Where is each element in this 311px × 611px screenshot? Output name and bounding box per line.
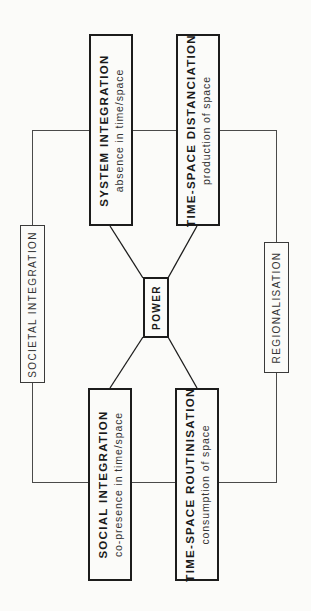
node-social-integration: SOCIAL INTEGRATION co-presence in time/s…: [88, 388, 132, 581]
edge-power-social-integration: [110, 337, 143, 388]
node-subtitle: co-presence in time/space: [111, 412, 125, 557]
node-power: POWER: [143, 277, 169, 338]
edge-power-routinisation: [168, 337, 197, 388]
edge-power-system-integration: [110, 226, 143, 278]
node-subtitle: absence in time/space: [112, 68, 126, 191]
node-title: TIME-SPACE ROUTINISATION: [183, 387, 198, 581]
node-time-space-distanciation: TIME-SPACE DISTANCIATION production of s…: [176, 34, 220, 226]
side-label-right: REGIONALISATION: [271, 252, 282, 364]
label-regionalisation: REGIONALISATION: [264, 242, 289, 373]
node-subtitle: consumption of space: [198, 424, 212, 544]
label-societal-integration: SOCIETAL INTEGRATION: [20, 225, 45, 383]
diagram-canvas: SYSTEM INTEGRATION absence in time/space…: [0, 0, 311, 611]
node-system-integration: SYSTEM INTEGRATION absence in time/space: [89, 34, 133, 226]
node-time-space-routinisation: TIME-SPACE ROUTINISATION consumption of …: [175, 388, 219, 581]
node-title: TIME-SPACE DISTANCIATION: [184, 34, 199, 227]
side-label-left: SOCIETAL INTEGRATION: [27, 231, 38, 378]
edge-power-distanciation: [168, 226, 197, 278]
power-label: POWER: [151, 285, 162, 330]
node-title: SYSTEM INTEGRATION: [97, 54, 112, 206]
node-subtitle: production of space: [199, 76, 213, 185]
node-title: SOCIAL INTEGRATION: [96, 410, 111, 558]
